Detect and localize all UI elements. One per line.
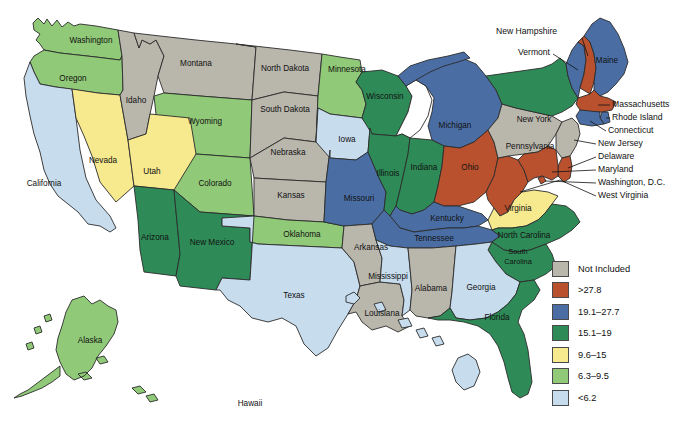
label-pennsylvania: Pennsylvania [506,142,555,151]
label-washington: Washington [70,36,113,45]
label-idaho: Idaho [126,96,147,105]
label-montana: Montana [180,59,212,68]
label-minnesota: Minnesota [328,65,366,74]
label-tennessee: Tennessee [414,234,454,243]
label-texas: Texas [283,291,304,300]
label-mississippi: Mississippi [368,272,408,281]
legend-label-bin-5: 6.3–9.5 [578,371,609,381]
label-kentucky: Kentucky [430,214,465,223]
label-south-dakota: South Dakota [260,105,310,114]
legend-swatch-bin-2 [552,304,569,320]
label-oklahoma: Oklahoma [283,230,321,239]
legend-swatch-bin-1 [552,282,569,298]
label-missouri: Missouri [344,194,375,203]
legend-item-bin-6[interactable]: <6.2 [552,387,672,409]
callout-washington-dc: Washington, D.C. [598,177,665,187]
callout-west-virginia: West Virginia [598,190,649,200]
label-indiana: Indiana [411,163,438,172]
label-wisconsin: Wisconsin [366,92,404,101]
label-south-carolina-line2: Carolina [504,257,532,266]
legend-label-bin-1: >27.8 [578,285,602,295]
label-virginia: Virginia [504,204,532,213]
legend-label-bin-6: <6.2 [578,393,596,403]
callout-vermont: Vermont [518,47,551,57]
label-north-carolina: North Carolina [498,231,551,240]
legend-item-bin-1[interactable]: >27.8 [552,280,672,302]
callout-new-jersey: New Jersey [598,138,644,148]
label-nevada: Nevada [89,156,118,165]
legend-swatch-bin-6 [552,390,569,406]
state-arizona[interactable] [134,186,180,276]
label-new-york: New York [517,115,552,124]
label-south-carolina-line1: South [508,247,527,256]
legend-label-bin-3: 15.1–19 [578,328,612,338]
label-wyoming: Wyoming [188,117,222,126]
state-alabama[interactable] [408,246,456,318]
legend-item-bin-5[interactable]: 6.3–9.5 [552,366,672,388]
legend-swatch-bin-4 [552,347,569,363]
legend-swatch-bin-5 [552,368,569,384]
leader-delaware [568,157,596,168]
legend-item-bin-2[interactable]: 19.1–27.7 [552,301,672,323]
label-ohio: Ohio [461,163,479,172]
label-nebraska: Nebraska [270,148,305,157]
label-utah: Utah [143,167,161,176]
label-louisiana: Louisiana [364,309,399,318]
callout-rhode-island: Rhode Island [612,112,663,122]
legend-label-bin-4: 9.6–15 [578,350,606,360]
state-delaware[interactable] [558,156,572,182]
callout-connecticut: Connecticut [608,125,654,135]
label-california: California [27,179,62,188]
label-arkansas: Arkansas [354,243,388,252]
label-hawaii: Hawaii [238,399,263,408]
label-alaska: Alaska [78,336,103,345]
callout-new-hampshire: New Hampshire [496,26,557,36]
map-legend: Not Included >27.8 19.1–27.7 15.1–19 9.6… [552,258,672,409]
legend-item-not-included[interactable]: Not Included [552,258,672,280]
callout-maryland: Maryland [598,164,634,174]
label-michigan: Michigan [439,121,472,130]
label-north-dakota: North Dakota [261,64,310,73]
callout-massachusetts: Massachusetts [612,99,669,109]
legend-swatch-not-included [552,261,569,277]
legend-item-bin-4[interactable]: 9.6–15 [552,344,672,366]
label-colorado: Colorado [198,179,232,188]
label-arizona: Arizona [141,233,169,242]
label-oregon: Oregon [59,74,87,83]
legend-label-not-included: Not Included [578,264,630,274]
state-massachusetts[interactable] [576,90,616,112]
state-alaska[interactable] [14,296,158,402]
callout-delaware: Delaware [598,151,635,161]
label-alabama: Alabama [415,284,448,293]
label-new-mexico: New Mexico [190,238,235,247]
legend-label-bin-2: 19.1–27.7 [578,307,619,317]
label-georgia: Georgia [466,283,496,292]
label-florida: Florida [484,313,509,322]
label-maine: Maine [596,56,619,65]
label-iowa: Iowa [338,135,356,144]
state-connecticut[interactable] [576,110,604,126]
label-kansas: Kansas [277,191,304,200]
legend-swatch-bin-3 [552,325,569,341]
label-illinois: Illinois [377,169,400,178]
legend-item-bin-3[interactable]: 15.1–19 [552,323,672,345]
